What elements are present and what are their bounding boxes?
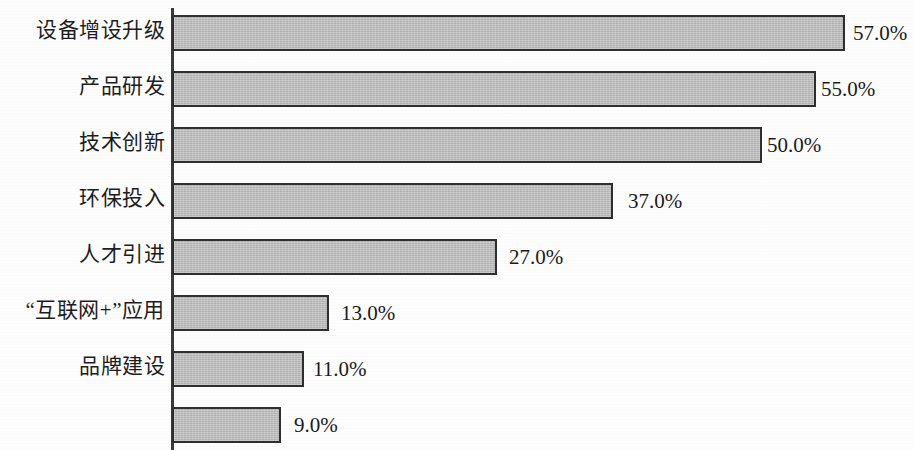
value-label: 50.0% bbox=[767, 127, 821, 163]
category-label: “互联网+”应用 bbox=[26, 280, 166, 336]
value-label: 9.0% bbox=[294, 407, 338, 443]
chart-row: 产品研发 55.0% bbox=[0, 56, 914, 112]
chart-row: “互联网+”应用 13.0% bbox=[0, 280, 914, 336]
bar bbox=[172, 127, 762, 163]
bar bbox=[172, 351, 304, 387]
chart-row: 设备增设升级 57.0% bbox=[0, 0, 914, 56]
category-label: 品牌建设 bbox=[79, 336, 165, 392]
category-label: 技术创新 bbox=[79, 112, 165, 168]
bar bbox=[172, 239, 497, 275]
plot-area: 设备增设升级 57.0% 产品研发 55.0% 技术创新 50.0% 环保投入 … bbox=[0, 0, 914, 450]
bar bbox=[172, 15, 845, 51]
value-label: 55.0% bbox=[821, 71, 875, 107]
value-label: 11.0% bbox=[313, 351, 366, 387]
chart-row: 品牌建设 11.0% bbox=[0, 336, 914, 392]
value-label: 57.0% bbox=[853, 15, 907, 51]
bar bbox=[172, 407, 281, 443]
bar bbox=[172, 183, 613, 219]
value-label: 13.0% bbox=[341, 295, 395, 331]
category-label: 设备增设升级 bbox=[36, 0, 165, 56]
chart-row: 环保投入 37.0% bbox=[0, 168, 914, 224]
bar-chart: 设备增设升级 57.0% 产品研发 55.0% 技术创新 50.0% 环保投入 … bbox=[0, 0, 914, 450]
category-label: 环保投入 bbox=[79, 168, 165, 224]
category-label: 人才引进 bbox=[79, 224, 165, 280]
chart-row: 9.0% bbox=[0, 392, 914, 448]
bar bbox=[172, 295, 329, 331]
value-label: 37.0% bbox=[628, 183, 682, 219]
category-label: 产品研发 bbox=[79, 56, 165, 112]
value-label: 27.0% bbox=[509, 239, 563, 275]
chart-row: 人才引进 27.0% bbox=[0, 224, 914, 280]
bar bbox=[172, 71, 816, 107]
chart-row: 技术创新 50.0% bbox=[0, 112, 914, 168]
